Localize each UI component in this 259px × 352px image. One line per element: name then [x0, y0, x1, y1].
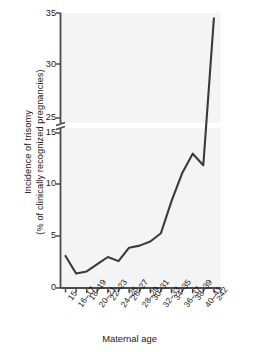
y-tick-label-25: 25	[34, 113, 56, 122]
y-tick-label-0: 0	[34, 283, 56, 292]
y-tick-label-group: 35 30 25 15 10 5 0	[32, 0, 56, 352]
axis-break-band	[61, 123, 221, 128]
chart-figure: Incidence of trisomy (% of clinically re…	[0, 0, 259, 352]
y-tick-label-35: 35	[34, 9, 56, 18]
plot-background	[61, 13, 221, 288]
y-tick-label-30: 30	[34, 60, 56, 69]
y-tick-label-15: 15	[34, 128, 56, 137]
y-tick-label-5: 5	[34, 231, 56, 240]
x-axis-title: Maternal age	[0, 333, 259, 344]
y-tick-label-10: 10	[34, 179, 56, 188]
